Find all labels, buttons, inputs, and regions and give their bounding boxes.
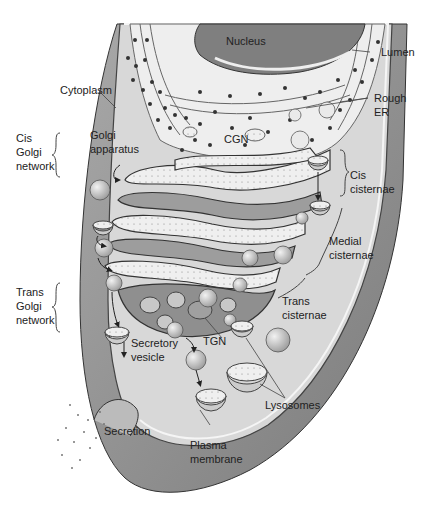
label-lumen: Lumen (381, 45, 415, 59)
label-lysosomes: Lysosomes (265, 398, 320, 412)
label-rough-er: Rough ER (374, 91, 406, 119)
label-medial-cisternae: Medial cisternae (329, 234, 374, 262)
label-cgn: CGN (224, 132, 248, 146)
label-trans-cisternae: Trans cisternae (282, 294, 327, 322)
label-plasma-membrane: Plasma membrane (190, 438, 243, 466)
label-secretion: Secretion (104, 424, 150, 438)
label-trans-golgi-network: Trans Golgi network (16, 285, 55, 327)
label-golgi-apparatus: Golgi apparatus (90, 128, 139, 156)
label-cytoplasm: Cytoplasm (60, 83, 112, 97)
golgi-diagram (0, 0, 445, 509)
label-cis-golgi-network: Cis Golgi network (16, 131, 55, 173)
label-nucleus: Nucleus (226, 34, 266, 48)
label-cis-cisternae: Cis cisternae (350, 168, 395, 196)
label-tgn: TGN (203, 334, 226, 348)
label-secretory-vesicle: Secretory vesicle (131, 336, 178, 364)
